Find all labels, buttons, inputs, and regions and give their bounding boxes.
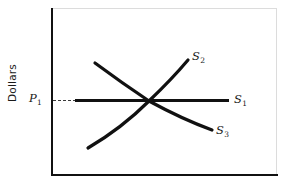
curve-s1-subscript: 1: [242, 99, 247, 108]
curve-s3-symbol: S: [216, 123, 224, 137]
curve-s2: [88, 60, 188, 148]
curve-label-s1: S1: [234, 92, 247, 106]
curve-s2-symbol: S: [192, 49, 200, 63]
curve-label-s2: S2: [192, 49, 205, 63]
curve-s3-subscript: 3: [224, 130, 229, 139]
supply-curve-figure: Dollars P1 S1 S2 S3: [0, 0, 290, 192]
curve-s1-symbol: S: [234, 92, 242, 106]
curve-label-s3: S3: [216, 123, 229, 137]
curve-s2-subscript: 2: [200, 56, 205, 65]
